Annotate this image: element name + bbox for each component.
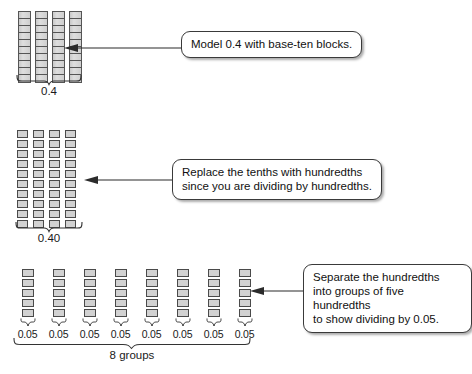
hundredths-square [239,289,251,297]
hundredths-square [115,279,127,287]
groups-count-label: 8 groups [13,349,251,361]
hundredths-square [53,289,65,297]
hundredths-square [22,269,34,277]
rod-cell [53,47,64,54]
callout-replace-hundredths: Replace the tenths with hundredths since… [172,159,382,200]
hundredths-column-group [17,130,76,228]
groups-brace: 8 groups [13,337,251,361]
rod-cell [36,40,47,47]
hundredths-column [17,130,28,228]
hundredths-square [33,130,44,138]
group-of-five: 0.05 [74,269,105,340]
rod-cell [19,40,30,47]
rod-cell [19,19,30,26]
hundredths-square [53,309,65,317]
rod-cell [53,61,64,68]
hundredths-square [17,140,28,148]
hundredths-square [208,279,220,287]
hundredths-square [33,210,44,218]
hundredths-square [146,309,158,317]
hundredths-square [177,289,189,297]
hundredths-square [49,190,60,198]
rod-cell [53,26,64,33]
hundredths-square [49,170,60,178]
hundredths-square [17,180,28,188]
hundredths-square [65,130,76,138]
hundredths-square [177,279,189,287]
group-stack [177,269,189,317]
rod-cell [70,61,81,68]
hundredths-square [33,140,44,148]
hundredths-square [146,289,158,297]
rod-cell [36,26,47,33]
arrow-left-icon [250,285,304,297]
brace-icon [113,318,129,327]
hundredths-square [17,190,28,198]
hundredths-square [146,299,158,307]
brace-icon [206,318,222,327]
hundredths-block-row [17,130,76,228]
hundredths-square [239,269,251,277]
rod-cell [36,33,47,40]
tenths-rod [18,11,31,83]
callout-model-tenths: Model 0.4 with base-ten blocks. [181,31,362,58]
hundredths-square [17,150,28,158]
rod-cell [19,26,30,33]
rod-cell [19,47,30,54]
group-of-five: 0.05 [229,269,260,340]
hundredths-square [84,299,96,307]
hundredths-square [84,279,96,287]
brace-icon [144,318,160,327]
hundredths-square [49,150,60,158]
group-stack [84,269,96,317]
group-container: 0.05 0.05 0.05 [12,269,260,340]
hundredths-square [33,180,44,188]
rod-cell [36,54,47,61]
rod-cell [53,19,64,26]
hundredths-square [33,190,44,198]
group-of-five: 0.05 [43,269,74,340]
hundredths-square [17,130,28,138]
brace-icon [82,318,98,327]
rod-cell [36,61,47,68]
hundredths-square [115,269,127,277]
hundredths-square [239,279,251,287]
hundredths-square [49,200,60,208]
brace-icon [20,318,36,327]
hundredths-square [115,289,127,297]
rod-cell [53,54,64,61]
rod-cell [36,12,47,19]
hundredths-square [65,200,76,208]
hundredths-square [84,269,96,277]
tenths-value-label: 0.4 [16,85,82,97]
hundredths-square [33,170,44,178]
hundredths-column [65,130,76,228]
rod-cell [36,47,47,54]
group-stack [146,269,158,317]
hundredths-square [65,180,76,188]
brace-icon [13,337,251,349]
hundredths-square [65,170,76,178]
brace-icon [175,318,191,327]
hundredths-square [49,140,60,148]
hundredths-column [33,130,44,228]
hundredths-brace: 0.40 [15,221,83,244]
hundredths-square [49,160,60,168]
hundredths-square [65,210,76,218]
callout-arrow-tenths [64,42,182,54]
rod-cell [53,40,64,47]
hundredths-square [17,210,28,218]
brace-icon [237,318,253,327]
hundredths-square [208,289,220,297]
hundredths-square [239,299,251,307]
hundredths-square [146,269,158,277]
rod-cell [19,61,30,68]
brace-icon [15,221,83,232]
hundredths-square [53,279,65,287]
hundredths-square [22,299,34,307]
hundredths-column [49,130,60,228]
group-stack [208,269,220,317]
callout-separate-groups: Separate the hundredths into groups of f… [303,264,472,333]
hundredths-square [17,170,28,178]
hundredths-square [49,130,60,138]
